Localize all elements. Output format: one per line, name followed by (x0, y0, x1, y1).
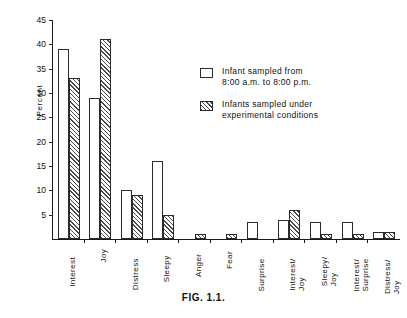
y-axis-tick-label: 35 (37, 64, 46, 74)
y-axis-tick-label: 45 (37, 15, 46, 25)
bar-group (53, 20, 85, 239)
bar-experimental (384, 232, 395, 239)
bar-sampled (342, 222, 353, 239)
bar-sampled (89, 98, 100, 239)
bar-experimental (163, 215, 174, 239)
legend-item: Infant sampled from 8:00 a.m. to 8:00 p.… (200, 66, 390, 87)
y-axis-tick-label: 30 (37, 88, 46, 98)
y-axis-tick-label: 20 (37, 137, 46, 147)
y-axis-tick-mark (49, 20, 53, 21)
bar-experimental (195, 234, 206, 239)
bar-experimental (353, 234, 364, 239)
bar-group (85, 20, 117, 239)
y-axis-tick-label: 15 (37, 161, 46, 171)
y-axis-tick-mark (49, 142, 53, 143)
bar-sampled (58, 49, 69, 239)
legend-label: Infant sampled from 8:00 a.m. to 8:00 p.… (222, 66, 311, 87)
y-axis-tick-label: 10 (37, 185, 46, 195)
bar-experimental (132, 195, 143, 239)
y-axis-tick-label: 40 (37, 39, 46, 49)
y-axis-tick-mark (49, 69, 53, 70)
y-axis-tick-label: 25 (37, 112, 46, 122)
y-axis-tick-labels: 51015202530354045 (0, 0, 46, 318)
bar-group (116, 20, 148, 239)
legend-swatch-open-box (200, 68, 213, 78)
bar-sampled (247, 222, 258, 239)
bar-experimental (289, 210, 300, 239)
figure-caption: FIG. 1.1. (0, 292, 407, 303)
bar-sampled (310, 222, 321, 239)
y-axis-tick-mark (49, 117, 53, 118)
bar-sampled (121, 190, 132, 239)
bar-sampled (373, 232, 384, 239)
legend-swatch-hatched-box (200, 101, 213, 111)
y-axis-tick-mark (49, 93, 53, 94)
y-axis-tick-label: 5 (41, 210, 46, 220)
bar-experimental (100, 39, 111, 239)
bar-experimental (226, 234, 237, 239)
y-axis-tick-mark (49, 190, 53, 191)
bar-sampled (278, 220, 289, 239)
legend-item: Infants sampled under experimental condi… (200, 99, 390, 120)
bar-experimental (321, 234, 332, 239)
bar-experimental (69, 78, 80, 239)
y-axis-tick-mark (49, 44, 53, 45)
legend-label: Infants sampled under experimental condi… (222, 99, 318, 120)
y-axis-tick-mark (49, 215, 53, 216)
figure-container: Percent 51015202530354045 InterestJoyDis… (0, 0, 407, 318)
legend: Infant sampled from 8:00 a.m. to 8:00 p.… (200, 66, 390, 132)
bar-group (148, 20, 180, 239)
y-axis-tick-mark (49, 166, 53, 167)
x-axis-line (52, 239, 400, 240)
bar-sampled (152, 161, 163, 239)
